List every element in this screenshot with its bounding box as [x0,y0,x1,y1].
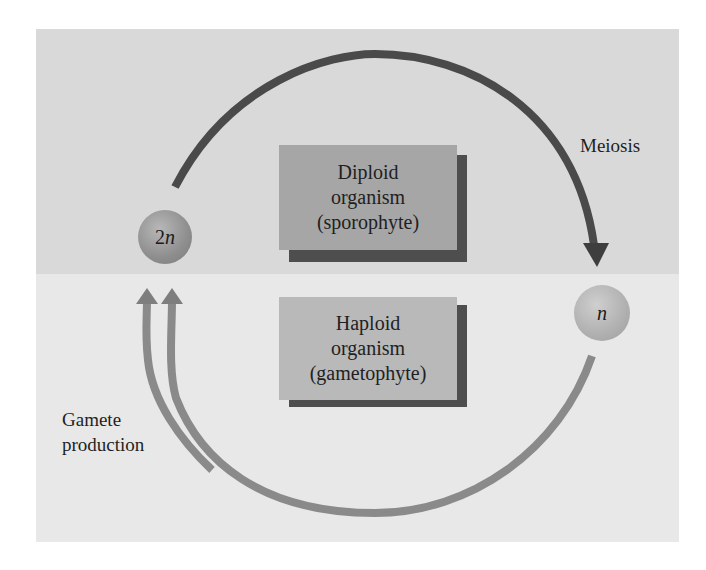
diploid-cell-variable: n [165,226,175,249]
life-cycle-diagram: Diploid organism (sporophyte) Haploid or… [0,0,706,570]
diploid-cell-number: 2 [155,226,165,249]
diploid-box-line2: organism [331,185,405,210]
diploid-box-line3: (sporophyte) [317,210,419,235]
haploid-box-line1: Haploid [336,311,400,336]
gamete-arrowhead-icon-2 [161,288,183,304]
gamete-production-label: Gamete production [62,407,144,457]
haploid-cell-n: n [574,285,630,341]
diploid-cell-2n: 2n [138,210,192,264]
haploid-cell-variable: n [597,302,607,325]
gamete-label-line2: production [62,432,144,457]
haploid-box-line2: organism [331,336,405,361]
gamete-label-line1: Gamete [62,407,144,432]
diploid-box-line1: Diploid [337,160,398,185]
meiosis-arrowhead-icon [583,243,609,267]
gamete-arrowhead-icon-1 [136,288,158,304]
haploid-box-line3: (gametophyte) [310,361,427,386]
haploid-organism-box: Haploid organism (gametophyte) [279,297,457,400]
meiosis-label: Meiosis [580,133,640,158]
diploid-organism-box: Diploid organism (sporophyte) [279,145,457,250]
